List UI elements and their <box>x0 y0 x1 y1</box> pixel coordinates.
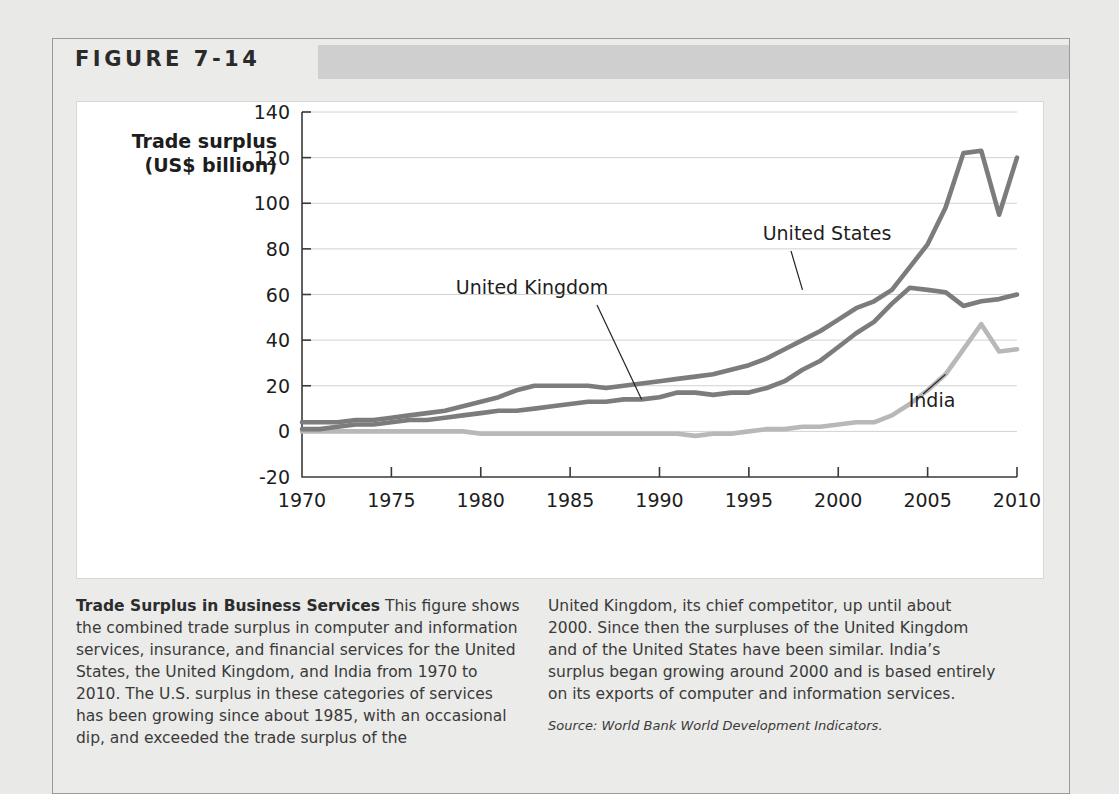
chart-panel: Trade surplus (US$ billion) 140120100806… <box>76 101 1044 579</box>
figure-panel: FIGURE 7-14 Trade surplus (US$ billion) … <box>52 38 1070 794</box>
x-tick-labels: 197019751980198519901995200020052010 <box>278 489 1041 511</box>
y-tick-labels: 140120100806040200-20 <box>254 102 290 488</box>
x-tick-label: 1970 <box>278 489 326 511</box>
figure-number-label: FIGURE 7-14 <box>75 47 260 71</box>
y-tick-label: 100 <box>254 192 290 214</box>
series-annotation-label: United Kingdom <box>456 276 609 298</box>
y-tick-label: 0 <box>278 420 290 442</box>
x-tick-label: 1975 <box>367 489 415 511</box>
y-tick-label: 40 <box>266 329 290 351</box>
x-tick-label: 1980 <box>457 489 505 511</box>
x-tick-label: 1985 <box>546 489 594 511</box>
x-tick-label: 2005 <box>903 489 951 511</box>
x-tick-label: 2010 <box>993 489 1041 511</box>
y-tick-label: 20 <box>266 375 290 397</box>
line-chart: 140120100806040200-20 197019751980198519… <box>77 102 1045 580</box>
y-tick-label: -20 <box>259 466 290 488</box>
y-tick-label: 60 <box>266 284 290 306</box>
series-annotation-label: United States <box>763 222 892 244</box>
caption-body-right: United Kingdom, its chief competitor, up… <box>548 595 996 705</box>
source-note: Source: World Bank World Development Ind… <box>548 717 996 735</box>
y-tick-label: 140 <box>254 102 290 123</box>
caption-title: Trade Surplus in Business Services <box>76 597 380 615</box>
x-tick-label: 1995 <box>725 489 773 511</box>
caption-column-left: Trade Surplus in Business Services This … <box>76 595 524 749</box>
x-tick-label: 1990 <box>635 489 683 511</box>
y-tick-label: 120 <box>254 147 290 169</box>
figure-caption: Trade Surplus in Business Services This … <box>76 595 1053 749</box>
caption-body-left: This figure shows the combined trade sur… <box>76 597 520 747</box>
figure-header: FIGURE 7-14 <box>53 39 1069 79</box>
figure-header-band <box>318 45 1069 79</box>
x-tick-label: 2000 <box>814 489 862 511</box>
caption-column-right: United Kingdom, its chief competitor, up… <box>548 595 996 749</box>
series-annotation-label: India <box>909 389 956 411</box>
y-tick-label: 80 <box>266 238 290 260</box>
